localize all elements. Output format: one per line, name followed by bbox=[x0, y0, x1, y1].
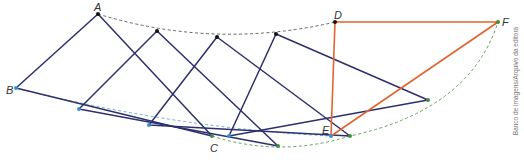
point-e bbox=[329, 134, 333, 138]
point-left-1 bbox=[77, 107, 81, 111]
point-left-3 bbox=[227, 134, 231, 138]
top-vertex-points bbox=[96, 12, 337, 39]
right-vertex-path bbox=[212, 22, 498, 147]
point-b bbox=[14, 86, 18, 90]
image-credit: Banco de imagens/Arquivo da editora bbox=[509, 6, 521, 156]
point-right-2 bbox=[348, 134, 352, 138]
point-top-3 bbox=[274, 32, 278, 36]
label-d: D bbox=[334, 9, 342, 21]
label-a: A bbox=[93, 1, 101, 13]
image-credit-text: Banco de imagens/Arquivo da editora bbox=[512, 27, 519, 135]
point-f bbox=[496, 20, 500, 24]
triangle-def bbox=[331, 22, 498, 136]
point-right-1 bbox=[276, 144, 280, 148]
point-c bbox=[210, 134, 214, 138]
triangle-step-1 bbox=[79, 31, 278, 146]
top-vertex-path bbox=[98, 14, 335, 34]
triangle-rotation-diagram: A B C D E F bbox=[0, 0, 524, 160]
point-left-2 bbox=[147, 123, 151, 127]
label-b: B bbox=[6, 84, 13, 96]
label-c: C bbox=[210, 142, 218, 154]
point-top-1 bbox=[155, 29, 159, 33]
label-e: E bbox=[322, 124, 330, 136]
point-top-2 bbox=[215, 35, 219, 39]
point-right-3 bbox=[426, 98, 430, 102]
